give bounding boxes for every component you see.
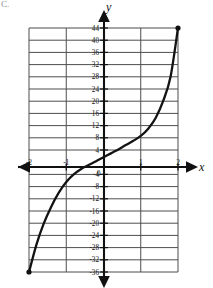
y-tick-label: 40: [92, 37, 100, 45]
y-tick-label: -24: [89, 232, 99, 240]
y-tick-label: 20: [92, 98, 100, 106]
x-tick-label: 0: [97, 169, 101, 178]
y-tick-label: 24: [92, 86, 100, 94]
y-tick-label: -20: [89, 220, 99, 228]
y-tick-label: 44: [92, 25, 100, 33]
x-tick-label: 2: [176, 158, 180, 167]
y-tick-label: 16: [92, 110, 100, 118]
y-tick-label: -36: [89, 269, 99, 277]
curve-endpoint: [26, 269, 31, 274]
y-axis: [98, 10, 110, 288]
y-tick-label: 28: [92, 73, 100, 81]
coordinate-plane: 44403632282420161284-4-8-12-16-20-24-28-…: [0, 0, 213, 288]
y-tick-label: 32: [92, 61, 100, 69]
y-tick-label: -8: [93, 183, 99, 191]
x-axis-label: x: [198, 160, 205, 174]
figure-canvas: C. 44403632282420161284-4-8-12-16-20-24-…: [0, 0, 213, 288]
y-tick-label: 8: [95, 134, 99, 142]
x-axis: [18, 161, 198, 173]
y-tick-label: -12: [89, 195, 99, 203]
y-tick-label: 36: [92, 49, 100, 57]
y-axis-label: y: [105, 0, 112, 14]
y-tick-label: 4: [95, 147, 99, 155]
y-tick-labels: 44403632282420161284-4-8-12-16-20-24-28-…: [89, 25, 99, 277]
y-tick-marks: [100, 28, 108, 272]
curve-endpoint: [175, 25, 180, 30]
x-tick-label: -1: [63, 158, 69, 167]
x-tick-label: -2: [26, 158, 32, 167]
y-tick-label: -32: [89, 256, 99, 264]
y-tick-label: 12: [92, 122, 100, 130]
x-tick-label: 1: [139, 158, 143, 167]
y-tick-label: -16: [89, 208, 99, 216]
y-tick-label: -28: [89, 244, 99, 252]
